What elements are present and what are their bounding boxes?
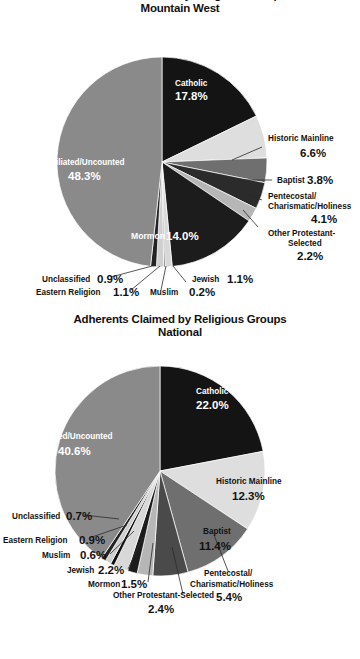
chart-block-national: Adherents Claimed by Religious Groups Na…	[0, 310, 360, 651]
label-pentecostal-line1: Pentecostal/	[268, 192, 317, 201]
label-muslim-name-national: Muslim	[42, 551, 70, 560]
chart-title-mountain-west: Adherents Claimed by Religious Groups Mo…	[0, 0, 360, 14]
label-unaffiliated-pct: 48.3%	[68, 170, 101, 182]
label-mormon-name-national: Mormon	[88, 580, 120, 589]
label-mormon-pct: 14.0%	[166, 230, 199, 242]
label-pentecostal-line2-national: Charismatic/Holiness	[190, 580, 274, 589]
chart-title-line2-national: National	[0, 326, 360, 339]
label-jewish-name-national: Jewish	[67, 566, 94, 575]
label-muslim-pct-national: 0.6%	[80, 549, 106, 561]
leader-line-muslim	[161, 266, 166, 290]
label-catholic-name: Catholic	[175, 79, 208, 88]
label-baptist-name: Baptist	[277, 176, 305, 185]
label-catholic-pct: 17.8%	[175, 90, 208, 102]
chart-block-mountain-west: Adherents Claimed by Religious Groups Mo…	[0, 0, 360, 310]
label-muslim-pct: 0.2%	[189, 286, 215, 298]
label-unclassified-pct-national: 0.7%	[66, 510, 92, 522]
label-other-protestant-line2: Selected	[288, 239, 322, 248]
label-unaffiliated-name-national: Unaffiliated/Uncounted	[23, 432, 113, 441]
label-unaffiliated-pct-national: 40.6%	[58, 445, 91, 457]
label-other-protestant-name-national: Other Protestant-Selected	[113, 591, 214, 600]
label-historic-mainline-pct-national: 12.3%	[232, 490, 265, 502]
label-other-protestant-pct: 2.2%	[297, 250, 323, 262]
label-jewish-pct: 1.1%	[227, 273, 253, 285]
leader-line-jewish	[173, 266, 186, 282]
label-baptist-name-national: Baptist	[203, 527, 231, 536]
label-baptist-pct-national: 11.4%	[199, 540, 231, 552]
pie-chart-national: Catholic 22.0% Unaffiliated/Uncounted 40…	[0, 339, 360, 651]
label-historic-mainline-name-national: Historic Mainline	[216, 477, 282, 486]
label-pentecostal-pct: 4.1%	[311, 213, 337, 225]
label-jewish-name: Jewish	[192, 275, 219, 284]
label-eastern-religion-pct-national: 0.9%	[79, 534, 105, 546]
label-unclassified-pct: 0.9%	[97, 273, 123, 285]
chart-title-national: Adherents Claimed by Religious Groups Na…	[0, 310, 360, 339]
label-jewish-pct-national: 2.2%	[98, 564, 124, 576]
label-baptist-pct: 3.8%	[307, 174, 333, 186]
label-historic-mainline-pct: 6.6%	[300, 147, 326, 159]
label-pentecostal-pct-national: 5.4%	[216, 591, 242, 603]
label-pentecostal-line2: Charismatic/Holiness	[268, 202, 352, 211]
label-mormon-pct-national: 1.5%	[121, 578, 147, 590]
pie-svg-national: Catholic 22.0% Unaffiliated/Uncounted 40…	[0, 339, 360, 651]
chart-title-line1-national: Adherents Claimed by Religious Groups	[0, 313, 360, 326]
chart-title-line2: Mountain West	[0, 2, 360, 14]
label-catholic-pct-national: 22.0%	[196, 399, 229, 411]
label-unaffiliated-name: Unaffiliated/Uncounted	[35, 158, 125, 167]
label-mormon-name: Mormon	[131, 231, 165, 241]
label-historic-mainline-name: Historic Mainline	[268, 134, 334, 143]
label-catholic-name-national: Catholic	[196, 387, 229, 396]
label-other-protestant-line1: Other Protestant-	[268, 229, 336, 238]
label-unclassified-name-national: Unclassified	[12, 512, 60, 521]
label-pentecostal-line1-national: Pentecostal/	[204, 569, 253, 578]
label-other-protestant-pct-national: 2.4%	[148, 603, 174, 615]
label-unclassified-name: Unclassified	[42, 275, 90, 284]
label-eastern-religion-pct: 1.1%	[113, 286, 139, 298]
pie-chart-mountain-west: Catholic 17.8% Unaffiliated/Uncounted 48…	[0, 14, 360, 310]
label-eastern-religion-name-national: Eastern Religion	[3, 536, 68, 545]
label-muslim-name: Muslim	[150, 288, 178, 297]
pie-svg-mountain-west: Catholic 17.8% Unaffiliated/Uncounted 48…	[0, 14, 360, 310]
label-eastern-religion-name: Eastern Religion	[36, 288, 101, 297]
